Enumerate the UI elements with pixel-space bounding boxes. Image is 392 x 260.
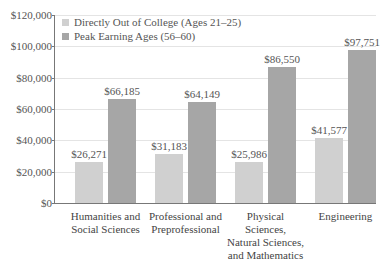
y-tick-mark [52, 15, 55, 16]
bar [315, 138, 343, 203]
legend-item-peak: Peak Earning Ages (56–60) [62, 29, 241, 43]
y-tick-mark [52, 78, 55, 79]
y-tick-label: $0 [41, 197, 52, 209]
legend: Directly Out of College (Ages 21–25) Pea… [62, 15, 241, 43]
legend-label: Directly Out of College (Ages 21–25) [74, 15, 241, 29]
legend-swatch-dark [62, 33, 69, 40]
y-tick-mark [52, 109, 55, 110]
y-tick-label: $40,000 [16, 134, 52, 146]
x-category-label: Humanities andSocial Sciences [66, 210, 146, 236]
y-tick-label: $100,000 [11, 40, 52, 52]
gridline [55, 15, 376, 16]
y-tick-label: $80,000 [16, 72, 52, 84]
gridline [55, 78, 376, 79]
y-tick-label: $60,000 [16, 103, 52, 115]
data-label: $86,550 [252, 53, 312, 65]
data-label: $64,149 [172, 88, 232, 100]
legend-swatch-light [62, 19, 69, 26]
bar [268, 67, 296, 203]
data-label: $66,185 [92, 85, 152, 97]
x-axis [54, 203, 376, 204]
legend-item-college: Directly Out of College (Ages 21–25) [62, 15, 241, 29]
bar [155, 154, 183, 203]
y-tick-label: $20,000 [16, 166, 52, 178]
x-category-label: Engineering [306, 210, 386, 223]
bar [188, 102, 216, 203]
y-tick-mark [52, 46, 55, 47]
y-tick-mark [52, 203, 55, 204]
y-tick-label: $120,000 [11, 9, 52, 21]
y-tick-mark [52, 140, 55, 141]
legend-label: Peak Earning Ages (56–60) [74, 29, 195, 43]
bar [348, 50, 376, 203]
bar [108, 99, 136, 203]
bar [75, 162, 103, 203]
bar [235, 162, 263, 203]
x-category-label: Physical Sciences,Natural Sciences,and M… [226, 210, 306, 260]
x-category-label: Professional andPreprofessional [146, 210, 226, 236]
gridline [55, 46, 376, 47]
data-label: $97,751 [332, 36, 392, 48]
y-tick-mark [52, 172, 55, 173]
